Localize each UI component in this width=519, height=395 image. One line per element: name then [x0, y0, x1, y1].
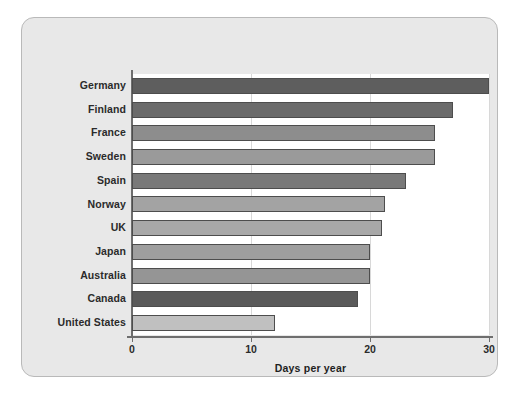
bar-united-states: [132, 315, 275, 331]
x-tick-label-30: 30: [483, 343, 495, 355]
bar-japan: [132, 244, 370, 260]
category-label-japan: Japan: [26, 245, 126, 257]
bar-germany: [132, 78, 489, 94]
bar-uk: [132, 220, 382, 236]
category-label-finland: Finland: [26, 103, 126, 115]
category-label-norway: Norway: [26, 198, 126, 210]
bar-norway: [132, 196, 385, 212]
x-axis-line: [127, 336, 493, 338]
bar-row: [132, 169, 489, 193]
x-tick-label-0: 0: [129, 343, 135, 355]
bar-row: [132, 121, 489, 145]
x-tick-mark-0: [132, 336, 133, 342]
bar-row: [132, 240, 489, 264]
bar-australia: [132, 268, 370, 284]
bar-spain: [132, 173, 406, 189]
category-label-canada: Canada: [26, 292, 126, 304]
bar-row: [132, 193, 489, 217]
bar-france: [132, 125, 435, 141]
x-tick-mark-10: [251, 336, 252, 342]
bar-canada: [132, 291, 358, 307]
chart-panel: GermanyFinlandFranceSwedenSpainNorwayUKJ…: [21, 17, 498, 377]
category-label-germany: Germany: [26, 79, 126, 91]
x-tick-mark-30: [489, 336, 490, 342]
category-label-spain: Spain: [26, 174, 126, 186]
bar-finland: [132, 102, 453, 118]
bar-row: [132, 216, 489, 240]
category-label-uk: UK: [26, 221, 126, 233]
bar-sweden: [132, 149, 435, 165]
x-tick-label-20: 20: [364, 343, 376, 355]
bar-row: [132, 311, 489, 335]
bar-row: [132, 145, 489, 169]
category-axis-labels: GermanyFinlandFranceSwedenSpainNorwayUKJ…: [22, 74, 126, 335]
bar-row: [132, 264, 489, 288]
gridline-30: [489, 74, 490, 335]
x-tick-mark-20: [370, 336, 371, 342]
category-label-france: France: [26, 126, 126, 138]
category-label-united-states: United States: [26, 316, 126, 328]
bar-row: [132, 288, 489, 312]
category-label-australia: Australia: [26, 269, 126, 281]
category-label-sweden: Sweden: [26, 150, 126, 162]
x-tick-label-10: 10: [245, 343, 257, 355]
bar-row: [132, 98, 489, 122]
x-axis-title: Days per year: [132, 362, 489, 374]
bar-row: [132, 74, 489, 98]
